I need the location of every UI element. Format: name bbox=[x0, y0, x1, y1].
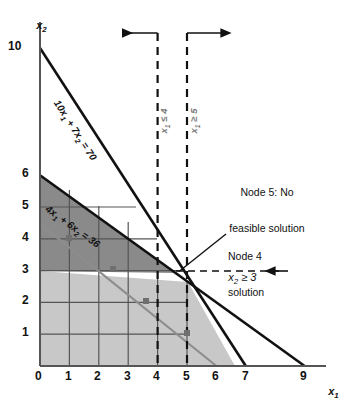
x-tick-5: 5 bbox=[183, 370, 190, 384]
y-tick-1: 1 bbox=[22, 326, 29, 340]
x-tick-3: 3 bbox=[124, 370, 131, 384]
x-tick-6: 6 bbox=[212, 370, 219, 384]
x-tick-9: 9 bbox=[300, 370, 307, 384]
y-tick-3: 3 bbox=[22, 263, 29, 277]
x-tick-1: 1 bbox=[65, 370, 72, 384]
x-tick-7: 7 bbox=[242, 370, 249, 384]
node5-line-1: Node 5: No bbox=[212, 186, 322, 198]
y-tick-5: 5 bbox=[22, 199, 29, 213]
y-axis-label: x2 bbox=[24, 6, 47, 47]
y-tick-2: 2 bbox=[22, 294, 29, 308]
y-tick-6: 6 bbox=[22, 167, 29, 181]
x-tick-2: 2 bbox=[94, 370, 101, 384]
branch-label-x1-ge-5: x1 ≥ 5 bbox=[178, 109, 213, 144]
x-tick-4: 4 bbox=[153, 370, 160, 384]
y-tick-10: 10 bbox=[8, 40, 21, 54]
x-axis-label: x1 bbox=[316, 372, 339, 402]
cut-label-x2-ge-3: x2 ≥ 3 bbox=[216, 258, 256, 299]
x-tick-0: 0 bbox=[35, 370, 42, 384]
y-tick-4: 4 bbox=[22, 231, 29, 245]
